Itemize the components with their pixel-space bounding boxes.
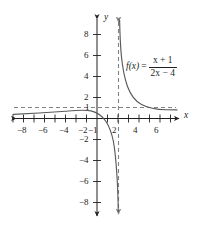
fraction-denominator: 2x − 4 bbox=[149, 68, 177, 79]
y-tick-label-4: 4 bbox=[84, 72, 89, 81]
y-tick-label--8: −8 bbox=[79, 198, 89, 207]
equals-sign: = bbox=[141, 62, 146, 72]
function-name: f(x) bbox=[126, 62, 139, 72]
y-tick-label-8: 8 bbox=[84, 30, 89, 39]
x-tick-label--1: −1 bbox=[88, 126, 98, 135]
y-tick-label-1: 1 bbox=[85, 103, 90, 112]
function-graph-figure: y x −8 −6 −4 −2 −1 2 4 6 8 6 4 2 1 −2 −4… bbox=[0, 0, 197, 237]
x-tick-label--4: −4 bbox=[59, 126, 69, 135]
graph-canvas bbox=[0, 0, 197, 237]
x-tick-label-4: 4 bbox=[133, 126, 138, 135]
y-tick-label--2: −2 bbox=[79, 135, 89, 144]
x-tick-label-2: 2 bbox=[112, 126, 117, 135]
x-tick-label--8: −8 bbox=[17, 126, 27, 135]
fraction-numerator: x + 1 bbox=[151, 56, 175, 67]
x-tick-label--6: −6 bbox=[38, 126, 48, 135]
x-tick-label-6: 6 bbox=[154, 126, 159, 135]
y-tick-label--6: −6 bbox=[79, 177, 89, 186]
y-axis-label: y bbox=[104, 13, 108, 23]
function-equation-annotation: f(x) = x + 1 2x − 4 bbox=[126, 56, 177, 78]
y-tick-label-2: 2 bbox=[84, 93, 89, 102]
fraction: x + 1 2x − 4 bbox=[149, 56, 177, 78]
y-tick-label-6: 6 bbox=[84, 51, 89, 60]
y-tick-label--4: −4 bbox=[79, 156, 89, 165]
x-axis-label: x bbox=[184, 111, 188, 121]
